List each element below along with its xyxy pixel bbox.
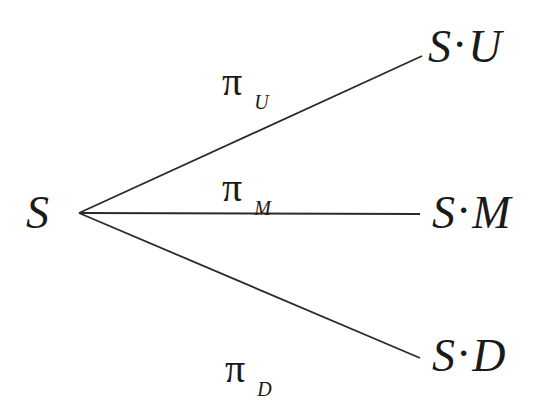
terminal-node-up: S·U xyxy=(428,24,502,70)
node-s: S xyxy=(432,330,455,381)
multiply-dot: · xyxy=(456,331,471,377)
node-u: U xyxy=(468,21,501,72)
origin-node-label: S xyxy=(26,187,49,238)
trinomial-tree-diagram: S π U π M π D S·U S·M S·D xyxy=(0,0,537,402)
origin-node: S xyxy=(26,190,49,236)
terminal-node-middle: S·M xyxy=(432,190,511,236)
subscript-u: U xyxy=(254,91,268,113)
subscript-m: M xyxy=(254,197,271,219)
probability-label-up: π U xyxy=(222,62,261,102)
node-s: S xyxy=(432,187,455,238)
pi-symbol: π xyxy=(222,59,242,104)
probability-label-middle: π M xyxy=(222,168,263,208)
node-d: D xyxy=(472,330,505,381)
branch-line-middle xyxy=(79,213,420,214)
node-s: S xyxy=(428,21,451,72)
node-m: M xyxy=(472,187,510,238)
pi-symbol: π xyxy=(222,165,242,210)
probability-label-down: π D xyxy=(225,349,264,389)
terminal-node-down: S·D xyxy=(432,333,506,379)
multiply-dot: · xyxy=(456,188,471,234)
subscript-d: D xyxy=(257,378,271,400)
pi-symbol: π xyxy=(225,346,245,391)
branch-line-down xyxy=(79,213,420,358)
multiply-dot: · xyxy=(452,22,467,68)
